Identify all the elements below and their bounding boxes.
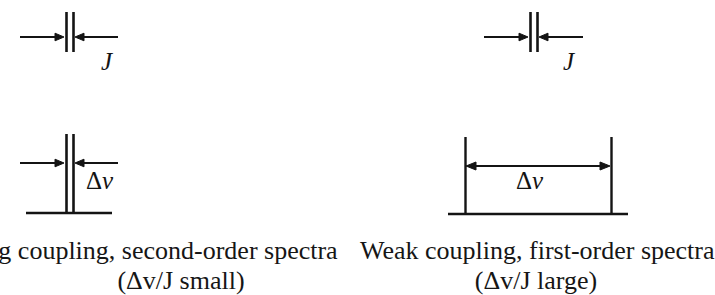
caption-strong-line1: Strong coupling, second-order spectra xyxy=(0,236,362,266)
label-j-weak: J xyxy=(563,49,574,74)
label-delta-nu-strong: Δv xyxy=(86,168,113,193)
caption-weak-coupling: Weak coupling, first-order spectra (Δv/J… xyxy=(360,236,715,295)
caption-strong-line2: (Δv/J small) xyxy=(0,266,362,295)
delta-glyph-strong: Δ xyxy=(86,167,102,194)
caption-weak-line2: (Δv/J large) xyxy=(360,266,712,295)
nu-glyph-weak: v xyxy=(532,167,543,194)
nu-glyph-strong: v xyxy=(102,167,113,194)
label-delta-nu-weak: Δv xyxy=(516,168,543,193)
caption-weak-line1: Weak coupling, first-order spectra xyxy=(360,236,715,266)
label-j-strong: J xyxy=(101,49,112,74)
caption-strong-coupling: Strong coupling, second-order spectra (Δ… xyxy=(0,236,362,295)
delta-glyph-weak: Δ xyxy=(516,167,532,194)
